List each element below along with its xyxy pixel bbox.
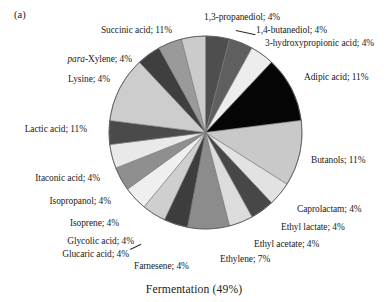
slice-label-1-4-butanediol: 1,4-butanediol; 4%: [256, 25, 327, 35]
para-xylene-suffix: -Xylene; 4%: [85, 54, 132, 64]
slice-label-isoprene: Isoprene; 4%: [70, 218, 119, 228]
slice-label-para-xylene: para-Xylene; 4%: [67, 54, 132, 64]
slice-label-ethylene: Ethylene; 7%: [220, 254, 270, 264]
figure-caption: Fermentation (49%): [146, 283, 242, 296]
slice-label-butanols: Butanols; 11%: [311, 155, 365, 165]
slice-label-succinic-acid: Succinic acid; 11%: [101, 25, 172, 35]
slice-label-1-3-propanediol: 1,3-propanediol; 4%: [204, 12, 280, 22]
para-xylene-italic-prefix: para: [67, 54, 85, 64]
slice-label-glucaric-acid: Glucaric acid; 4%: [62, 249, 129, 259]
figure-panel-a: (a) 1,3-propanediol; 4% 1,4-butanediol; …: [0, 0, 389, 302]
slice-label-ethyl-acetate: Ethyl acetate; 4%: [254, 239, 319, 249]
slice-label-3-hydroxypropionic-acid: 3-hydroxypropionic acid; 4%: [265, 38, 374, 48]
slice-label-farnesene: Farnesene; 4%: [134, 261, 189, 271]
slice-label-ethyl-lactate: Ethyl lactate; 4%: [281, 222, 345, 232]
slice-label-caprolactam: Caprolactam; 4%: [297, 204, 362, 214]
pie-slice-group: [109, 36, 302, 229]
slice-label-glycolic-acid: Glycolic acid; 4%: [67, 236, 134, 246]
slice-label-isopropanol: Isopropanol; 4%: [50, 196, 111, 206]
slice-label-itaconic-acid: Itaconic acid; 4%: [35, 173, 100, 183]
slice-label-lysine: Lysine; 4%: [68, 74, 110, 84]
slice-label-adipic-acid: Adipic acid; 11%: [304, 72, 368, 82]
slice-label-lactic-acid: Lactic acid; 11%: [25, 124, 87, 134]
